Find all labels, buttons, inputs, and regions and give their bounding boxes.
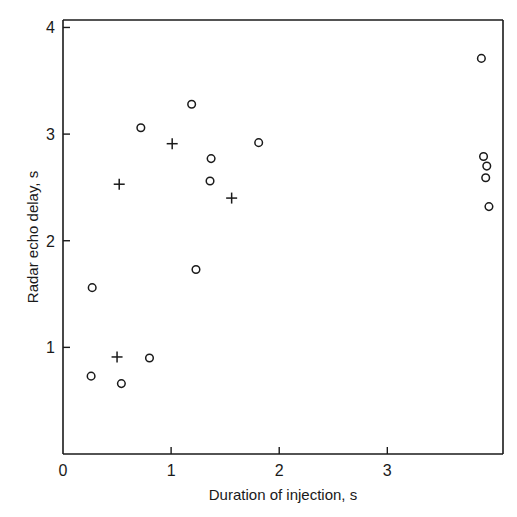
y-axis-label: Radar echo delay, s bbox=[24, 171, 41, 303]
data-point-circle bbox=[478, 55, 486, 63]
data-point-plus bbox=[114, 179, 125, 190]
data-points bbox=[87, 55, 492, 388]
data-point-plus bbox=[112, 351, 123, 362]
data-point-circle bbox=[255, 139, 263, 147]
data-point-circle bbox=[87, 372, 95, 380]
x-ticks: 0123 bbox=[59, 447, 392, 479]
data-point-circle bbox=[88, 284, 96, 292]
data-point-circle bbox=[482, 174, 490, 182]
data-point-circle bbox=[137, 124, 145, 132]
y-tick-label: 3 bbox=[46, 126, 55, 143]
y-tick-label: 1 bbox=[46, 339, 55, 356]
data-point-plus bbox=[167, 138, 178, 149]
y-ticks: 1234 bbox=[46, 19, 70, 356]
data-point-circle bbox=[485, 203, 493, 211]
data-point-plus bbox=[226, 193, 237, 204]
x-axis-label: Duration of injection, s bbox=[209, 486, 357, 503]
data-point-circle bbox=[188, 100, 196, 108]
x-tick-label: 0 bbox=[59, 462, 68, 479]
y-tick-label: 2 bbox=[46, 233, 55, 250]
data-point-circle bbox=[480, 153, 488, 161]
data-point-circle bbox=[146, 354, 154, 362]
data-point-circle bbox=[483, 162, 491, 170]
y-tick-label: 4 bbox=[46, 19, 55, 36]
x-tick-label: 1 bbox=[167, 462, 176, 479]
data-point-circle bbox=[118, 380, 126, 388]
plot-frame bbox=[63, 20, 503, 454]
scatter-chart: 0123 1234 Duration of injection, s Radar… bbox=[0, 0, 517, 517]
x-tick-label: 2 bbox=[275, 462, 284, 479]
data-point-circle bbox=[192, 266, 200, 274]
x-tick-label: 3 bbox=[383, 462, 392, 479]
data-point-circle bbox=[206, 177, 214, 185]
data-point-circle bbox=[207, 155, 215, 163]
